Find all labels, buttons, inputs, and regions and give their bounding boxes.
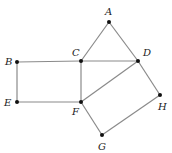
label-A: A — [104, 6, 112, 17]
label-D: D — [142, 47, 151, 58]
segments-group — [17, 22, 160, 135]
label-H: H — [157, 101, 167, 112]
point-G — [100, 133, 104, 137]
point-E — [15, 100, 19, 104]
label-B: B — [4, 56, 12, 67]
segment-GF — [81, 102, 102, 135]
point-H — [158, 93, 162, 97]
segment-AC — [81, 22, 109, 61]
label-G: G — [98, 141, 106, 152]
segment-DH — [138, 61, 160, 95]
segment-FD — [81, 61, 138, 102]
point-F — [79, 100, 83, 104]
point-C — [79, 59, 83, 63]
labels-group: ABCDEFGH — [3, 6, 167, 152]
label-E: E — [3, 97, 12, 108]
point-B — [15, 60, 19, 64]
point-A — [107, 20, 111, 24]
label-F: F — [71, 106, 80, 117]
segment-AD — [109, 22, 138, 61]
geometry-diagram: ABCDEFGH — [0, 0, 172, 153]
segment-BC — [17, 61, 81, 62]
label-C: C — [72, 47, 80, 58]
points-group — [15, 20, 162, 137]
segment-HG — [102, 95, 160, 135]
point-D — [136, 59, 140, 63]
